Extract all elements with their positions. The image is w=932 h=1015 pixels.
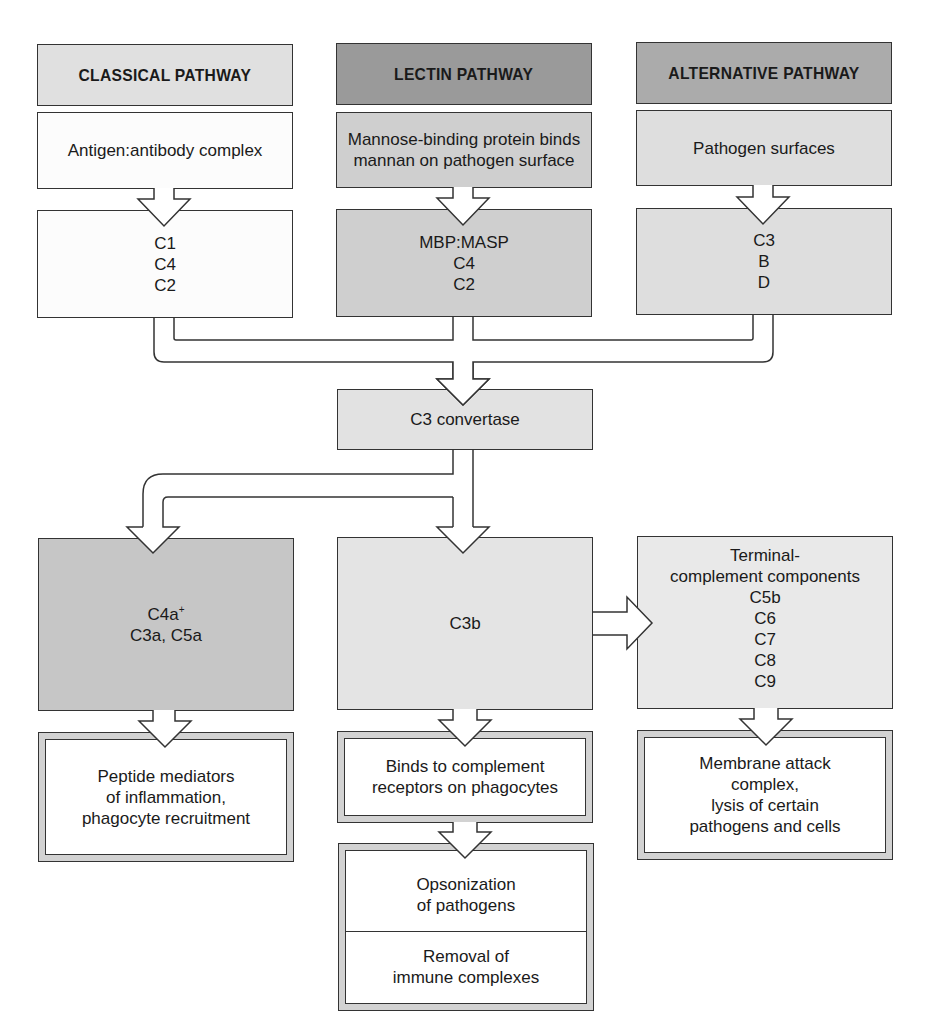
lectin-pathway-header: LECTIN PATHWAY [336, 43, 592, 105]
component-c8: C8 [754, 650, 776, 671]
component-c9: C9 [754, 671, 776, 692]
component-mbp-masp: MBP:MASP [419, 232, 509, 253]
receptor-binding-text: Binds to complement receptors on phagocy… [345, 739, 585, 815]
component-c6: C6 [754, 608, 776, 629]
lectin-trigger-box: Mannose-binding protein binds mannan on … [336, 112, 592, 188]
classical-trigger-box: Antigen:antibody complex [37, 112, 293, 189]
c3b-box: C3b [337, 537, 593, 710]
component-c2: C2 [154, 275, 176, 296]
classical-components-box: C1 C4 C2 [37, 210, 293, 318]
classical-trigger-text: Antigen:antibody complex [68, 140, 263, 161]
classical-pathway-title: CLASSICAL PATHWAY [79, 65, 252, 86]
c3a-c5a-label: C3a, C5a [130, 625, 202, 646]
c3-convertase-label: C3 convertase [410, 409, 520, 430]
alternative-components-box: C3 B D [636, 208, 892, 315]
alternative-pathway-title: ALTERNATIVE PATHWAY [668, 63, 859, 84]
opsonization-text: Opsonization of pathogens [346, 851, 586, 931]
component-c5b: C5b [749, 587, 780, 608]
component-c1: C1 [154, 233, 176, 254]
lectin-components-box: MBP:MASP C4 C2 [336, 209, 592, 317]
c4a-label: C4a+ [147, 604, 184, 625]
component-c3: C3 [753, 230, 775, 251]
component-b: B [758, 251, 769, 272]
terminal-line-2: complement components [670, 566, 860, 587]
component-c4: C4 [154, 254, 176, 275]
component-c4: C4 [453, 253, 475, 274]
component-c7: C7 [754, 629, 776, 650]
component-d: D [758, 272, 770, 293]
classical-pathway-header: CLASSICAL PATHWAY [37, 44, 293, 106]
lectin-trigger-line-2: mannan on pathogen surface [353, 150, 574, 171]
anaphylatoxins-box: C4a+ C3a, C5a [38, 538, 294, 711]
terminal-line-1: Terminal- [730, 545, 800, 566]
c3-convertase-box: C3 convertase [337, 389, 593, 450]
c3b-label: C3b [449, 613, 480, 634]
membrane-attack-text: Membrane attack complex, lysis of certai… [645, 738, 885, 852]
alternative-trigger-text: Pathogen surfaces [693, 138, 835, 159]
opsonization-removal-box: Opsonization of pathogens Removal of imm… [338, 843, 594, 1011]
alternative-trigger-box: Pathogen surfaces [636, 110, 892, 186]
membrane-attack-outcome-box: Membrane attack complex, lysis of certai… [637, 730, 893, 860]
immune-complex-removal-text: Removal of immune complexes [346, 931, 586, 1004]
lectin-pathway-title: LECTIN PATHWAY [394, 64, 533, 85]
receptor-binding-outcome-box: Binds to complement receptors on phagocy… [337, 731, 593, 823]
inflammation-outcome-text: Peptide mediators of inflammation, phago… [46, 740, 286, 854]
terminal-components-box: Terminal- complement components C5b C6 C… [637, 536, 893, 709]
alternative-pathway-header: ALTERNATIVE PATHWAY [636, 42, 892, 104]
inflammation-outcome-box: Peptide mediators of inflammation, phago… [38, 732, 294, 862]
lectin-trigger-line-1: Mannose-binding protein binds [348, 129, 581, 150]
component-c2: C2 [453, 274, 475, 295]
